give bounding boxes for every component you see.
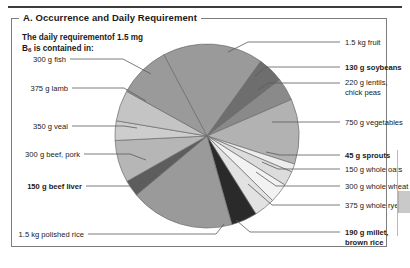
label-beef-pork: 300 g beef, pork [6,150,80,159]
label-fish: 300 g fish [6,55,66,64]
label-fruit: 1.5 kg fruit [345,38,380,47]
figure-page: A. Occurrence and Daily Requirement The … [0,0,410,268]
label-whole-wheat: 300 g whole wheat [345,182,408,191]
label-lamb: 375 g lamb [6,84,68,93]
label-veal: 350 g veal [6,122,68,131]
label-chick-peas: chick peas [345,88,381,97]
label-vegetables: 750 g vegetables [345,118,403,127]
subtitle-text: The daily requirementof 1.5 mg B6 is con… [22,33,143,55]
label-millet: 190 g millet, [345,228,388,237]
subtitle-line-1: The daily requirementof 1.5 mg [22,33,143,42]
subtitle-line-2-suffix: is contained in: [31,44,93,53]
page-title: A. Occurrence and Daily Requirement [19,12,201,24]
label-beef-liver: 150 g beef liver [6,182,82,191]
label-soybeans: 130 g soybeans [345,63,402,72]
label-polished-rice: 1.5 kg polished rice [6,230,84,239]
label-whole-oats: 150 g whole oats [345,165,402,174]
label-lentils: 220 g lentils, [345,78,388,87]
label-whole-rye: 375 g whole rye [345,201,399,210]
label-brown-rice: brown rice [345,238,383,247]
top-rule-divider [8,6,402,8]
page-edge-tab [398,191,410,213]
label-sprouts: 45 g sprouts [345,151,390,160]
